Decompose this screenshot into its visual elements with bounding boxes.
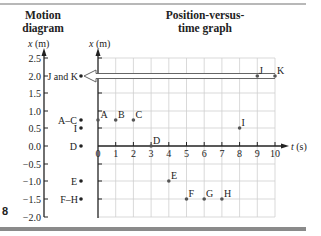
data-point-b — [114, 118, 118, 122]
motion-label-f-h: F–H — [60, 194, 78, 205]
tick-label: 2.0 — [29, 71, 42, 82]
t-tick-label: 3 — [149, 148, 154, 159]
motion-dot-a-c — [79, 118, 83, 122]
t-tick-label: 0 — [96, 148, 101, 159]
graph-t-axis-arrow-icon — [281, 144, 289, 149]
tick-label: 1.5 — [29, 88, 42, 99]
motion-axis-arrow-icon — [42, 48, 47, 56]
motion-dot-f-h — [79, 197, 83, 201]
motion-label-j-k: J and K — [47, 71, 78, 82]
point-label-g: G — [206, 188, 213, 199]
tick-label: 0.0 — [29, 141, 42, 152]
point-label-i: I — [242, 117, 245, 128]
tick-label: −1.0 — [23, 176, 41, 187]
t-tick-label: 4 — [166, 148, 171, 159]
t-tick-label: 7 — [219, 148, 224, 159]
point-label-c: C — [136, 109, 143, 120]
tick-label: 0.5 — [29, 123, 42, 134]
t-tick-label: 1 — [113, 148, 118, 159]
t-tick-label: 2 — [131, 148, 136, 159]
grid — [98, 58, 275, 217]
t-tick-label: 8 — [237, 148, 242, 159]
motion-label-i: I — [74, 123, 77, 134]
motion-axis-label: x (m) — [27, 38, 49, 50]
point-label-d: D — [153, 135, 160, 146]
tick-label: −2.0 — [23, 212, 41, 223]
tick-label: 1.0 — [29, 106, 42, 117]
motion-dot-d — [79, 144, 83, 148]
point-label-j: J — [259, 65, 263, 76]
figure-canvas: x (m) 2.5 2.0 1.5 1.0 0.5 0.0 −0.5 −1.0 … — [0, 0, 321, 236]
data-point-a — [96, 118, 100, 122]
point-label-h: H — [224, 188, 231, 199]
tick-label: 2.5 — [29, 53, 42, 64]
point-label-f: F — [189, 188, 195, 199]
point-label-b: B — [118, 109, 125, 120]
position-time-graph: x (m) — [84, 38, 307, 218]
motion-label-e: E — [71, 176, 77, 187]
point-label-e: E — [171, 170, 177, 181]
tick-label: −0.5 — [23, 159, 41, 170]
bottom-rule — [0, 227, 306, 231]
graph-y-axis-label: x (m) — [88, 38, 110, 50]
projection-arrow-icon — [84, 70, 275, 82]
point-label-a: A — [101, 109, 109, 120]
t-tick-label: 10 — [270, 148, 280, 159]
tick-label: −1.5 — [23, 194, 41, 205]
motion-dot-e — [79, 179, 83, 183]
motion-label-d: D — [70, 141, 77, 152]
motion-dot-i — [79, 126, 83, 130]
point-label-k: K — [277, 65, 285, 76]
graph-y-axis-arrow-icon — [96, 48, 101, 56]
t-tick-label: 6 — [202, 148, 207, 159]
graph-t-axis-label: t (s) — [291, 141, 307, 153]
motion-dot-j-k — [79, 74, 83, 78]
t-tick-label: 9 — [255, 148, 260, 159]
t-tick-label: 5 — [184, 148, 189, 159]
figure-number: 8 — [2, 205, 8, 217]
motion-diagram: x (m) 2.5 2.0 1.5 1.0 0.5 0.0 −0.5 −1.0 … — [23, 38, 83, 223]
